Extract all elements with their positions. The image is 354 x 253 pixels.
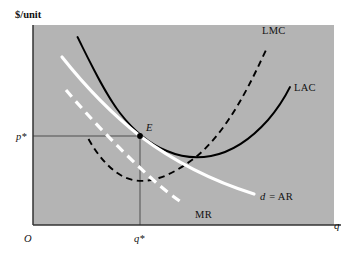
mr-label: MR — [195, 209, 212, 220]
quantity-tick-label: q* — [134, 233, 145, 244]
figure-root: $/unit q p* q* O E LMC LAC d= AR MR — [0, 0, 354, 253]
economics-diagram: $/unit q p* q* O E LMC LAC d= AR MR — [0, 0, 354, 253]
origin-label: O — [24, 233, 32, 244]
lmc-label: LMC — [262, 25, 286, 36]
demand-label-italic: d — [260, 191, 266, 202]
equilibrium-point-marker — [137, 133, 143, 139]
y-axis-title: $/unit — [15, 9, 42, 20]
demand-label: d= AR — [260, 191, 293, 202]
lac-label: LAC — [294, 82, 316, 93]
price-tick-label: p* — [15, 131, 27, 142]
demand-label-rest: = AR — [269, 191, 293, 202]
x-axis-title: q — [334, 219, 340, 231]
equilibrium-point-label: E — [145, 122, 153, 133]
